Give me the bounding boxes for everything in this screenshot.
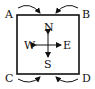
compass-n: N	[44, 21, 54, 34]
diagram: A B C D N S W E	[0, 0, 95, 89]
compass-w: W	[24, 39, 36, 52]
arrow-b-icon	[56, 5, 78, 13]
compass-e: E	[63, 39, 71, 52]
arrow-a-icon	[18, 5, 40, 13]
label-a: A	[4, 8, 14, 21]
label-b: B	[82, 8, 90, 21]
arrow-d-icon	[56, 77, 78, 82]
label-c: C	[5, 72, 13, 85]
label-d: D	[82, 72, 91, 85]
compass-s: S	[44, 58, 52, 71]
arrow-c-icon	[18, 77, 40, 82]
